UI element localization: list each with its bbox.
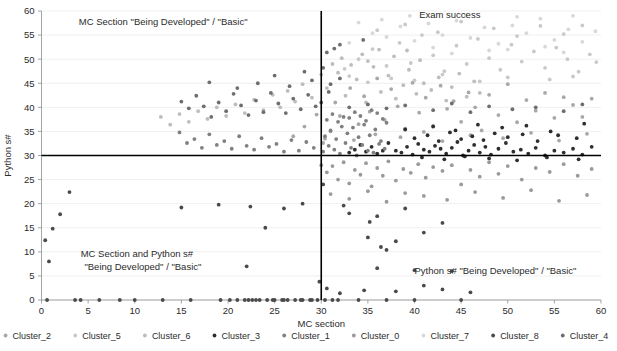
data-point <box>375 214 379 218</box>
data-point <box>543 45 547 49</box>
data-point <box>310 96 314 100</box>
data-point <box>331 62 335 66</box>
data-point <box>554 46 558 50</box>
data-point <box>455 44 459 48</box>
legend-label: Cluster_3 <box>222 331 261 341</box>
data-point <box>368 220 372 224</box>
y-tick-label: 10 <box>24 246 35 257</box>
data-point <box>450 146 454 150</box>
data-point <box>386 159 390 163</box>
data-point <box>323 134 327 138</box>
data-point <box>303 125 307 129</box>
data-point <box>385 248 389 252</box>
data-point <box>405 49 409 53</box>
data-point <box>215 143 219 147</box>
data-point <box>357 298 361 302</box>
data-point <box>381 117 385 121</box>
data-point <box>161 298 165 302</box>
data-point <box>444 99 448 103</box>
data-point <box>276 102 280 106</box>
legend-marker <box>352 334 356 338</box>
data-point <box>375 28 379 32</box>
x-tick-label: 35 <box>363 305 374 316</box>
data-point <box>385 121 389 125</box>
data-point <box>437 76 441 80</box>
data-point <box>47 260 51 264</box>
data-point <box>260 136 264 140</box>
data-point <box>465 62 469 66</box>
data-point <box>329 82 333 86</box>
data-point <box>482 138 486 142</box>
data-point <box>340 125 344 129</box>
data-point <box>178 112 182 116</box>
data-point <box>301 202 305 206</box>
data-point <box>506 48 510 52</box>
data-point <box>338 291 342 295</box>
data-point <box>258 298 262 302</box>
data-point <box>353 148 357 152</box>
data-point <box>79 298 83 302</box>
data-point <box>588 52 592 56</box>
data-point <box>511 24 515 28</box>
data-point <box>340 56 344 60</box>
data-point <box>413 298 417 302</box>
data-point <box>352 138 356 142</box>
data-point <box>398 41 402 45</box>
data-point <box>271 298 275 302</box>
data-point <box>347 41 351 45</box>
data-point <box>571 14 575 18</box>
data-point <box>353 110 357 114</box>
data-point <box>424 96 428 100</box>
data-point <box>331 112 335 116</box>
data-point <box>343 67 347 71</box>
data-point <box>548 78 552 82</box>
data-point <box>263 226 267 230</box>
data-point <box>420 33 424 37</box>
data-point <box>347 211 351 215</box>
data-point <box>436 30 440 34</box>
data-point <box>439 84 443 88</box>
data-point <box>401 83 405 87</box>
data-point <box>97 298 101 302</box>
data-point <box>433 144 437 148</box>
data-point <box>207 132 211 136</box>
data-point <box>521 132 525 136</box>
data-point <box>576 174 580 178</box>
data-point <box>441 139 445 143</box>
y-tick-label: 45 <box>24 78 35 89</box>
data-point <box>344 94 348 98</box>
data-point <box>476 123 480 127</box>
data-point <box>248 205 252 209</box>
data-point <box>571 147 575 151</box>
data-point <box>396 104 400 108</box>
data-point <box>454 129 458 133</box>
data-point <box>424 176 428 180</box>
data-point <box>422 231 426 235</box>
data-point <box>580 103 584 107</box>
data-point <box>478 79 482 83</box>
y-tick-label: 0 <box>29 294 34 305</box>
data-point <box>202 104 206 108</box>
data-point <box>254 298 258 302</box>
data-point <box>556 133 560 137</box>
data-point <box>366 149 370 153</box>
data-point <box>362 123 366 127</box>
data-point <box>336 71 340 75</box>
data-point <box>179 206 183 210</box>
data-point <box>422 194 426 198</box>
data-point <box>282 298 286 302</box>
data-point <box>243 298 247 302</box>
data-point <box>487 56 491 60</box>
legend-marker <box>491 334 495 338</box>
y-tick-label: 60 <box>24 5 35 16</box>
data-point <box>478 151 482 155</box>
data-point <box>381 174 385 178</box>
data-point <box>580 115 584 119</box>
data-point <box>291 134 295 138</box>
data-point <box>437 139 441 143</box>
data-point <box>590 97 594 101</box>
data-point <box>347 116 351 120</box>
data-point <box>351 126 355 130</box>
data-point <box>394 97 398 101</box>
data-point <box>379 90 383 94</box>
